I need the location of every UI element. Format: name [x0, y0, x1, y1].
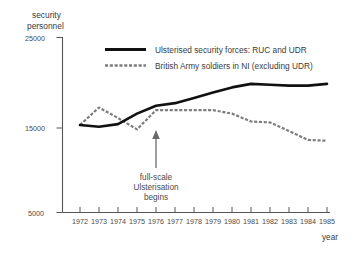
x-tick-label: 1983 — [281, 217, 297, 226]
x-axis-title: year — [322, 233, 338, 242]
y-tick-label-5000: 5000 — [28, 209, 44, 218]
annotation-arrow — [152, 130, 160, 168]
line-chart: security personnel 25000 15000 5000 — [0, 0, 361, 260]
annotation-line3: begins — [144, 193, 168, 202]
x-tick-label: 1982 — [262, 217, 278, 226]
chart-container: security personnel 25000 15000 5000 — [0, 0, 361, 260]
x-tick-label: 1979 — [205, 217, 221, 226]
y-axis-ticks — [57, 38, 63, 213]
arrow-head-icon — [152, 130, 160, 139]
legend-label-ulsterised-forces: Ulsterised security forces: RUC and UDR — [155, 45, 307, 55]
x-tick-label: 1972 — [72, 217, 88, 226]
x-tick-label: 1975 — [129, 217, 145, 226]
y-axis-title-line2: personnel — [27, 21, 64, 31]
x-tick-label: 1980 — [224, 217, 240, 226]
y-axis-title-line1: security — [32, 10, 62, 20]
x-tick-label: 1984 — [300, 217, 316, 226]
x-tick-label: 1978 — [186, 217, 202, 226]
x-tick-label: 1974 — [110, 217, 126, 226]
legend-label-british-army: British Army soldiers in NI (excluding U… — [155, 61, 313, 71]
y-tick-label-25000: 25000 — [25, 34, 45, 43]
annotation-line1: full-scale — [140, 173, 173, 182]
x-tick-label: 1981 — [243, 217, 259, 226]
x-tick-label: 1985 — [319, 217, 335, 226]
x-tick-label: 1973 — [91, 217, 107, 226]
x-axis-tick-labels: 1972 1973 1974 1975 1976 1977 1978 1979 … — [72, 217, 335, 226]
x-tick-label: 1976 — [148, 217, 164, 226]
x-tick-label: 1977 — [167, 217, 183, 226]
x-axis-ticks — [80, 207, 327, 213]
y-tick-label-15000: 15000 — [25, 124, 45, 133]
series-line-ulsterised-forces — [80, 84, 327, 127]
annotation-line2: Ulsterisation — [133, 183, 178, 192]
legend: Ulsterised security forces: RUC and UDR … — [105, 45, 313, 71]
